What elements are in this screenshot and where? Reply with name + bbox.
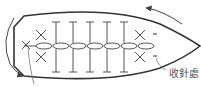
dc-stitches <box>52 22 128 72</box>
sc-stitches <box>22 30 145 62</box>
direction-arrows <box>6 6 182 77</box>
finish-label: 收針處 <box>169 65 199 80</box>
chain-stitches <box>36 43 154 49</box>
